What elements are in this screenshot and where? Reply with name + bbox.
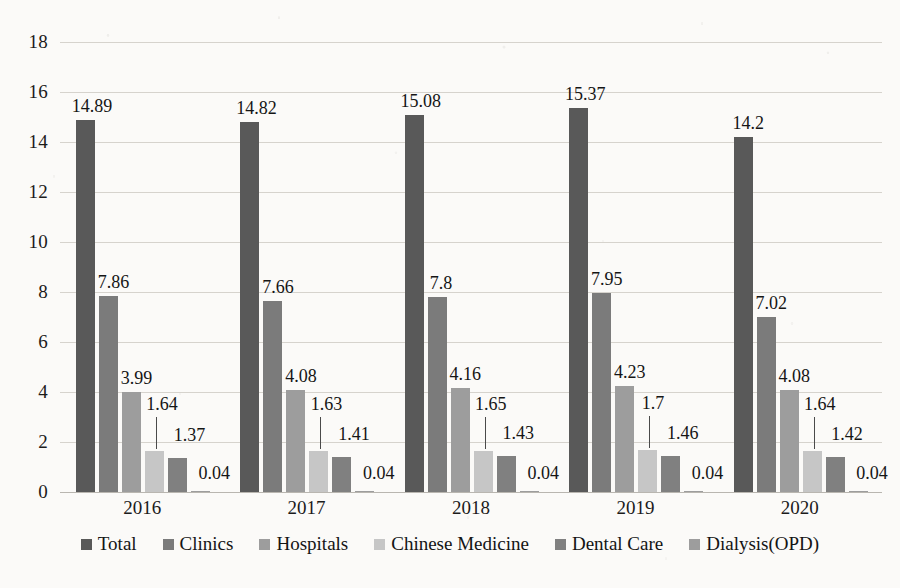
bar-slot: 14.2 [734, 42, 753, 492]
y-axis-tick-label: 4 [2, 381, 48, 403]
bar-slot: 7.86 [99, 42, 118, 492]
x-axis-tick-label: 2019 [553, 497, 717, 519]
bar[interactable] [849, 491, 868, 492]
bar-slot: 4.08 [780, 42, 799, 492]
bar-group: 15.377.954.231.71.460.042019 [553, 42, 717, 492]
bar-group: 14.827.664.081.631.410.042017 [224, 42, 388, 492]
bar-slot: 1.64 [145, 42, 164, 492]
bar-slot: 0.04 [191, 42, 210, 492]
bar[interactable] [309, 451, 328, 492]
y-axis-tick-label: 12 [2, 181, 48, 203]
bar[interactable] [592, 293, 611, 492]
bar[interactable] [780, 390, 799, 492]
bar[interactable] [474, 451, 493, 492]
bar[interactable] [286, 390, 305, 492]
bar[interactable] [497, 456, 516, 492]
plot-area: 02468101214161814.897.863.991.641.370.04… [60, 42, 882, 492]
bar-slot: 0.04 [520, 42, 539, 492]
label-leader-line [485, 417, 486, 449]
bar-slot: 1.41 [332, 42, 351, 492]
legend-swatch-icon [81, 539, 92, 550]
x-axis-tick-label: 2018 [389, 497, 553, 519]
bar[interactable] [122, 392, 141, 492]
bar[interactable] [145, 451, 164, 492]
y-axis-tick-label: 16 [2, 81, 48, 103]
bar-slot: 1.64 [803, 42, 822, 492]
bar-slot: 1.42 [826, 42, 845, 492]
bar-slot: 1.46 [661, 42, 680, 492]
legend-item-label: Dialysis(OPD) [706, 533, 819, 555]
bar-group-bars: 14.897.863.991.641.370.04 [60, 42, 224, 492]
bar-slot: 14.82 [240, 42, 259, 492]
bar-slot: 1.43 [497, 42, 516, 492]
bar[interactable] [451, 388, 470, 492]
bar-slot: 0.04 [849, 42, 868, 492]
bar[interactable] [332, 457, 351, 492]
bar-slot: 3.99 [122, 42, 141, 492]
x-axis-tick-label: 2016 [60, 497, 224, 519]
label-leader-line [649, 416, 650, 448]
bar-slot: 7.02 [757, 42, 776, 492]
bar[interactable] [428, 297, 447, 492]
bar-data-label: 7.8 [430, 273, 453, 294]
legend-swatch-icon [259, 539, 270, 550]
axis-baseline [60, 492, 882, 493]
bar[interactable] [76, 120, 95, 492]
bar[interactable] [355, 491, 374, 492]
bar-group: 15.087.84.161.651.430.042018 [389, 42, 553, 492]
legend-item[interactable]: Dental Care [555, 533, 663, 555]
bar[interactable] [405, 115, 424, 492]
bar-slot: 4.08 [286, 42, 305, 492]
bar-slot: 1.63 [309, 42, 328, 492]
bar[interactable] [263, 301, 282, 493]
bar-groups: 14.897.863.991.641.370.04201614.827.664.… [60, 42, 882, 492]
label-leader-line [814, 417, 815, 449]
legend-item-label: Clinics [180, 533, 234, 555]
bar[interactable] [638, 450, 657, 493]
bar[interactable] [191, 491, 210, 492]
bar-group-bars: 14.827.664.081.631.410.04 [224, 42, 388, 492]
legend-item[interactable]: Total [81, 533, 137, 555]
legend-item[interactable]: Clinics [163, 533, 234, 555]
bar[interactable] [757, 317, 776, 493]
bar-slot: 0.04 [355, 42, 374, 492]
bar[interactable] [684, 491, 703, 492]
legend-item[interactable]: Dialysis(OPD) [689, 533, 819, 555]
bar[interactable] [520, 491, 539, 492]
bar-slot: 15.08 [405, 42, 424, 492]
label-leader-line [156, 417, 157, 449]
y-axis-tick-label: 18 [2, 31, 48, 53]
bar-slot: 7.66 [263, 42, 282, 492]
legend-item-label: Hospitals [276, 533, 348, 555]
bar-slot: 4.16 [451, 42, 470, 492]
y-axis-tick-label: 2 [2, 431, 48, 453]
bar[interactable] [826, 457, 845, 493]
legend-item-label: Total [98, 533, 137, 555]
y-axis-tick-label: 6 [2, 331, 48, 353]
bar-slot: 1.65 [474, 42, 493, 492]
y-axis-tick-label: 10 [2, 231, 48, 253]
legend-swatch-icon [374, 539, 385, 550]
y-axis-tick-label: 14 [2, 131, 48, 153]
bar[interactable] [168, 458, 187, 492]
legend-item-label: Chinese Medicine [391, 533, 529, 555]
legend-item[interactable]: Chinese Medicine [374, 533, 529, 555]
bar-slot: 15.37 [569, 42, 588, 492]
bar[interactable] [734, 137, 753, 492]
chart-legend: TotalClinicsHospitalsChinese MedicineDen… [0, 533, 900, 555]
bar[interactable] [661, 456, 680, 493]
legend-swatch-icon [555, 539, 566, 550]
bar[interactable] [615, 386, 634, 492]
bar[interactable] [99, 296, 118, 493]
x-axis-tick-label: 2017 [224, 497, 388, 519]
bar[interactable] [240, 122, 259, 493]
bar-slot: 7.8 [428, 42, 447, 492]
legend-item[interactable]: Hospitals [259, 533, 348, 555]
legend-swatch-icon [163, 539, 174, 550]
bar-group-bars: 15.087.84.161.651.430.04 [389, 42, 553, 492]
bar-slot: 7.95 [592, 42, 611, 492]
bar-slot: 14.89 [76, 42, 95, 492]
legend-item-label: Dental Care [572, 533, 663, 555]
bar[interactable] [569, 108, 588, 492]
bar[interactable] [803, 451, 822, 492]
